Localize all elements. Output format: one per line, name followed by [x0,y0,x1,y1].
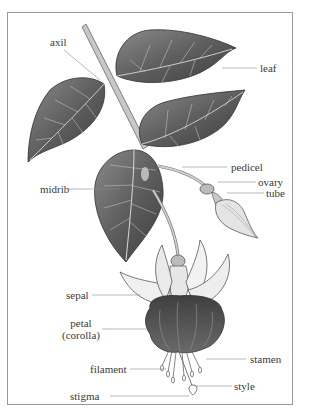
label-style: style [234,380,255,392]
leaf-top-right [116,30,236,83]
leaf-left [28,78,105,162]
label-sepal: sepal [66,289,89,301]
corolla [146,296,225,353]
stamens [161,348,202,383]
label-petal: petal (corolla) [60,317,102,341]
label-leaf: leaf [260,62,276,74]
fuchsia-flower [120,240,230,395]
label-axil: axil [50,36,67,48]
stigma-shape [189,385,197,395]
style-line [179,352,193,388]
label-midrib: midrib [40,183,69,195]
label-tube: tube [266,187,285,199]
label-stamen: stamen [250,353,281,365]
leaf-bottom [95,150,164,262]
label-filament: filament [90,363,127,375]
label-stigma: stigma [70,390,99,402]
pedicel [158,166,206,187]
label-petal-line1: petal [60,317,102,329]
label-petal-line2: (corolla) [60,329,102,341]
label-pedicel: pedicel [231,161,263,173]
flower-bud [200,184,258,238]
leaf-middle-right [139,90,245,148]
